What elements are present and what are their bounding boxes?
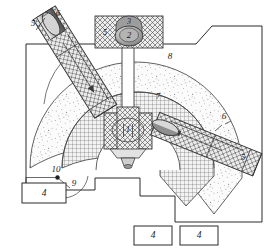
label-1: 1	[126, 124, 131, 134]
external-unit-box-right: 4	[180, 226, 218, 245]
label-6-beam-lower-right: 6	[222, 111, 227, 121]
label-7: 7	[156, 91, 161, 101]
label-4-right: 4	[197, 230, 202, 240]
label-5-beam-upper-left: 5	[31, 18, 36, 28]
label-3: 3	[126, 17, 131, 26]
external-unit-box-left: 4	[22, 183, 66, 203]
label-4-center: 4	[151, 230, 156, 240]
label-5-beam-lower-right: 5	[241, 152, 246, 162]
external-unit-box-center: 4	[134, 226, 172, 245]
label-10: 10	[52, 164, 62, 174]
technical-figure: 1 2 3 5 5 6 5 6 7 8 9 10 4 4 4	[0, 0, 267, 251]
label-5-top-block: 5	[103, 28, 107, 37]
figure-canvas: 1 2 3 5 5 6 5 6 7 8 9 10 4 4 4	[0, 0, 267, 251]
label-6-beam-upper-left: 6	[56, 8, 61, 18]
label-8: 8	[168, 51, 173, 61]
label-9: 9	[72, 178, 77, 188]
label-4-left: 4	[42, 188, 47, 198]
label-2: 2	[127, 30, 132, 40]
